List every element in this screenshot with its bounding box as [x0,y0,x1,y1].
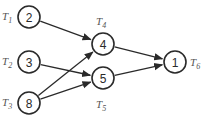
task-label: T1 [2,10,12,25]
task-graph: 2T13T28T34T45T51T6 [0,0,205,117]
task-label: T5 [96,98,106,113]
edge-t3-to-t5 [40,82,90,99]
node-value: 3 [26,56,33,70]
node-value: 1 [172,56,179,70]
node-value: 8 [26,97,33,111]
nodes: 2T13T28T34T45T51T6 [2,6,200,114]
node-t1: 2T1 [2,6,40,28]
edge-t4-to-t6 [115,47,163,59]
edge-t5-to-t6 [115,65,163,76]
node-t4: 4T4 [92,15,114,55]
node-t3: 8T3 [2,92,40,114]
task-label: T2 [2,55,12,70]
node-t2: 3T2 [2,51,40,73]
task-label: T6 [190,56,200,71]
node-value: 2 [26,11,33,25]
task-label: T4 [96,15,106,30]
task-label: T3 [2,96,12,111]
node-t5: 5T5 [92,67,114,113]
node-t6: 1T6 [164,51,200,73]
edge-t1-to-t4 [40,21,91,39]
node-value: 5 [100,72,107,86]
node-value: 4 [100,38,107,52]
